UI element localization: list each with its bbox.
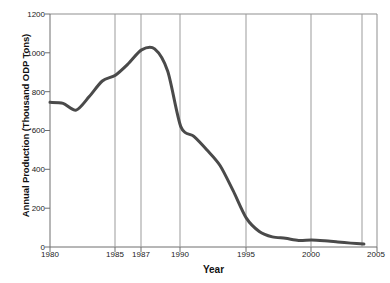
y-tick-label-200: 200: [15, 204, 45, 213]
plot-frame: [50, 14, 377, 247]
y-tick-label-1200: 1200: [15, 10, 45, 19]
y-tick-label-600: 600: [15, 126, 45, 135]
x-tick-label-2000: 2000: [291, 250, 331, 259]
y-tick-label-1000: 1000: [15, 49, 45, 58]
y-axis-tick-labels: 1200 1000 800 600 400 200 0: [12, 0, 45, 283]
x-tick-label-1995: 1995: [226, 250, 266, 259]
x-axis-title: Year: [50, 264, 377, 275]
y-tick-label-800: 800: [15, 88, 45, 97]
y-axis-ticks: [45, 14, 50, 247]
data-line-annual-production: [50, 47, 364, 244]
x-tick-label-2005: 2005: [356, 250, 390, 259]
x-tick-label-1980: 1980: [30, 250, 70, 259]
x-tick-label-1990: 1990: [160, 250, 200, 259]
x-tick-label-1987: 1987: [121, 250, 161, 259]
y-tick-label-400: 400: [15, 165, 45, 174]
